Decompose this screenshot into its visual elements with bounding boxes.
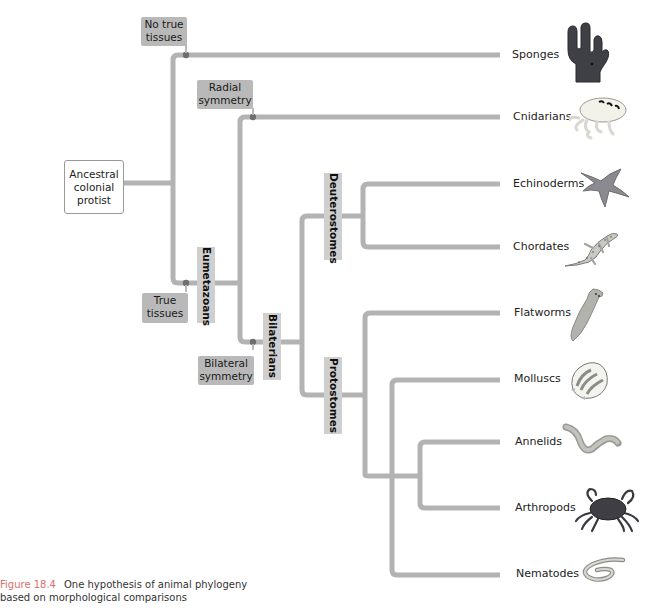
figure-caption: Figure 18.4One hypothesis of animal phyl… — [0, 578, 247, 604]
taxon-echinoderms: Echinoderms — [513, 177, 584, 190]
phylogenetic-tree — [0, 0, 659, 608]
clade-deuterostomes: Deuterostomes — [324, 173, 342, 260]
caption-line-1: One hypothesis of animal phylogeny — [64, 579, 247, 590]
jellyfish-icon — [569, 96, 629, 140]
taxon-molluscs: Molluscs — [514, 372, 561, 385]
label-bilateral-symmetry: Bilateral symmetry — [198, 356, 254, 385]
label-radial-symmetry: Radial symmetry — [197, 80, 253, 109]
crab-icon — [574, 487, 644, 533]
label-true-tissues: True tissues — [142, 293, 188, 323]
clade-protostomes: Protostomes — [324, 357, 342, 434]
label-no-true-tissues: No true tissues — [141, 17, 187, 46]
branch-nematodes — [392, 476, 500, 575]
branch-echinoderms — [363, 184, 500, 216]
roundworm-icon — [577, 556, 627, 584]
clade-eumetazoans: Eumetazoans — [197, 247, 215, 323]
earthworm-icon — [562, 423, 622, 457]
branch-molluscs — [392, 380, 500, 476]
branch-flatworms — [365, 313, 500, 395]
branch-cnidarians — [240, 117, 500, 283]
taxon-cnidarians: Cnidarians — [513, 110, 571, 123]
lizard-icon — [563, 228, 623, 268]
taxon-flatworms: Flatworms — [514, 306, 571, 319]
clade-bilaterians: Bilaterians — [263, 313, 281, 380]
sponge-icon — [564, 22, 612, 84]
taxon-chordates: Chordates — [513, 240, 569, 253]
starfish-icon — [579, 167, 631, 207]
figure-number: Figure 18.4 — [0, 579, 56, 590]
branch-chordates — [363, 216, 500, 247]
ancestral-protist-label: Ancestral colonial protist — [65, 168, 123, 207]
taxon-sponges: Sponges — [512, 48, 559, 61]
taxon-nematodes: Nematodes — [516, 567, 579, 580]
caption-line-2: based on morphological comparisons — [0, 591, 247, 604]
flatworm-icon — [567, 287, 607, 343]
ancestral-protist-box: Ancestral colonial protist — [64, 160, 124, 214]
branch-annelids — [420, 442, 500, 476]
taxon-arthropods: Arthropods — [515, 501, 576, 514]
shell-icon — [567, 360, 611, 402]
taxon-annelids: Annelids — [515, 435, 562, 448]
branch-other-protostomes — [365, 395, 392, 476]
branch-arthropods — [420, 476, 500, 508]
